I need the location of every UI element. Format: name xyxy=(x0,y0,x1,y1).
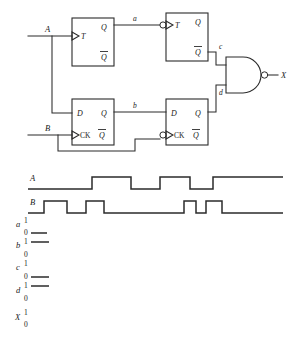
ff-t2-clock-label: T xyxy=(175,21,180,30)
wire-label-d: d xyxy=(219,88,223,97)
ff-t1-q-label: Q xyxy=(101,23,107,32)
timing-level-d-zero: 0 xyxy=(24,294,28,303)
ff-d1-body xyxy=(72,99,114,145)
label-output-x: X xyxy=(280,70,287,80)
ff-t2-q-label: Q xyxy=(195,18,201,27)
ff-t1-qbar-label: Q xyxy=(101,53,107,62)
ff-d2-data-label: D xyxy=(170,109,177,118)
ff-t1-clock-triangle xyxy=(72,32,79,40)
timing-label-x: X xyxy=(14,312,21,322)
timing-level-x-zero: 0 xyxy=(24,320,28,329)
timing-label-d: d xyxy=(16,285,21,295)
ff-d1-q-label: Q xyxy=(101,109,107,118)
timing-label-a-lower: a xyxy=(16,219,20,229)
ff-t2-clock-bubble-icon xyxy=(160,22,166,28)
ff-d1-clock-triangle xyxy=(72,131,79,139)
timing-level-b-one: 1 xyxy=(24,237,28,246)
timing-level-a-zero: 0 xyxy=(24,228,28,237)
label-input-b: B xyxy=(45,123,50,133)
timing-label-c: c xyxy=(16,262,20,272)
ff-t1-body xyxy=(72,18,114,66)
ff-t2-clock-triangle xyxy=(166,21,173,29)
wire-d-signal xyxy=(208,85,226,112)
nand-gate-body xyxy=(226,57,261,93)
ff-t2-body xyxy=(166,13,208,61)
timing-label-a-upper: A xyxy=(29,173,36,183)
timing-label-b-lower: b xyxy=(16,240,20,250)
timing-label-b-upper: B xyxy=(30,197,35,207)
timing-level-b-zero: 0 xyxy=(24,250,28,259)
timing-level-c-one: 1 xyxy=(24,259,28,268)
ff-d2-q-label: Q xyxy=(195,109,201,118)
waveform-a-upper xyxy=(28,177,283,189)
wire-b-branch-to-d2-ck xyxy=(58,135,160,151)
ff-d1-clock-label: CK xyxy=(80,131,91,140)
waveform-b-upper xyxy=(28,201,283,213)
wire-a-branch-to-d1 xyxy=(52,36,72,113)
ff-d1-qbar-label: Q xyxy=(99,131,105,140)
timing-level-d-one: 1 xyxy=(24,281,28,290)
ff-t2-qbar-label: Q xyxy=(195,48,201,57)
circuit-schematic: T Q Q a T Q Q c D Q CK Q b D Q CK xyxy=(0,0,288,165)
ff-d2-clock-bubble-icon xyxy=(160,132,166,138)
timing-level-a-one: 1 xyxy=(24,216,28,225)
timing-level-c-zero: 0 xyxy=(24,272,28,281)
label-input-a: A xyxy=(44,24,51,34)
ff-d2-clock-label: CK xyxy=(174,131,185,140)
timing-level-x-one: 1 xyxy=(24,308,28,317)
wire-c-signal xyxy=(208,52,226,65)
ff-d2-body xyxy=(166,99,208,145)
wire-label-c: c xyxy=(219,42,223,51)
timing-diagram: A B a 1 0 b 1 0 c 1 0 d 1 0 X 1 0 xyxy=(0,165,288,356)
wire-label-b: b xyxy=(133,101,137,110)
ff-d2-clock-triangle xyxy=(166,131,173,139)
ff-d2-qbar-label: Q xyxy=(193,131,199,140)
ff-t1-clock-label: T xyxy=(81,32,86,41)
figure-root: T Q Q a T Q Q c D Q CK Q b D Q CK xyxy=(0,0,288,356)
nand-output-bubble-icon xyxy=(261,72,267,78)
wire-label-a: a xyxy=(133,14,137,23)
ff-d1-data-label: D xyxy=(76,109,83,118)
